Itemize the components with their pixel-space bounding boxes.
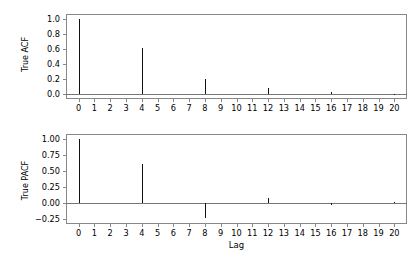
acf-x-tick-mark <box>315 99 316 102</box>
x-axis-label: Lag <box>66 240 407 250</box>
pacf-x-tick-mark <box>79 224 80 227</box>
acf-x-tick-mark <box>394 99 395 102</box>
pacf-zero-baseline <box>66 203 407 204</box>
acf-y-tick-mark <box>63 79 66 80</box>
acf-x-tick-mark <box>252 99 253 102</box>
acf-y-tick-label: 0.8 <box>18 29 60 39</box>
pacf-stem <box>142 164 143 203</box>
pacf-x-tick-mark <box>394 224 395 227</box>
acf-x-tick-mark <box>189 99 190 102</box>
acf-x-tick-mark <box>126 99 127 102</box>
pacf-y-tick-label: 1.00 <box>18 134 60 144</box>
acf-x-tick-mark <box>363 99 364 102</box>
pacf-x-tick-label: 20 <box>384 228 404 238</box>
pacf-y-tick-label: 0.00 <box>18 198 60 208</box>
pacf-y-tick-mark <box>63 155 66 156</box>
pacf-y-tick-mark <box>63 219 66 220</box>
pacf-y-tick-mark <box>63 187 66 188</box>
acf-y-tick-label: 1.0 <box>18 14 60 24</box>
pacf-x-tick-mark <box>221 224 222 227</box>
pacf-x-tick-mark <box>252 224 253 227</box>
acf-stem <box>331 92 332 94</box>
pacf-stem <box>331 203 332 205</box>
pacf-x-tick-mark <box>300 224 301 227</box>
pacf-x-tick-mark <box>237 224 238 227</box>
acf-x-tick-mark <box>284 99 285 102</box>
acf-stem <box>268 88 269 94</box>
pacf-y-tick-label: 0.75 <box>18 150 60 160</box>
pacf-x-tick-mark <box>110 224 111 227</box>
pacf-x-tick-mark <box>363 224 364 227</box>
acf-plot-area <box>66 14 407 99</box>
acf-y-tick-label: 0.2 <box>18 74 60 84</box>
pacf-x-tick-mark <box>158 224 159 227</box>
acf-x-tick-mark <box>173 99 174 102</box>
pacf-x-tick-mark <box>189 224 190 227</box>
acf-x-tick-mark <box>237 99 238 102</box>
acf-stem <box>142 48 143 94</box>
pacf-panel: True PACF Lag 1.000.750.500.250.00−0.250… <box>0 128 419 259</box>
pacf-x-tick-mark <box>315 224 316 227</box>
acf-y-tick-label: 0.4 <box>18 59 60 69</box>
acf-x-tick-mark <box>221 99 222 102</box>
pacf-stem <box>79 139 80 203</box>
acf-x-tick-mark <box>347 99 348 102</box>
acf-panel: True ACF 1.00.80.60.40.20.00123456789101… <box>0 0 419 128</box>
acf-pacf-figure: True ACF 1.00.80.60.40.20.00123456789101… <box>0 0 419 259</box>
pacf-x-tick-mark <box>284 224 285 227</box>
acf-y-tick-mark <box>63 34 66 35</box>
pacf-x-tick-mark <box>142 224 143 227</box>
pacf-x-tick-mark <box>173 224 174 227</box>
pacf-y-tick-label: −0.25 <box>18 214 60 224</box>
pacf-stem <box>394 202 395 203</box>
pacf-y-tick-mark <box>63 139 66 140</box>
pacf-stem <box>268 198 269 202</box>
acf-y-tick-label: 0.0 <box>18 89 60 99</box>
acf-zero-baseline <box>66 94 407 95</box>
pacf-plot-area <box>66 134 407 224</box>
acf-x-tick-mark <box>300 99 301 102</box>
pacf-x-tick-mark <box>331 224 332 227</box>
pacf-y-tick-label: 0.25 <box>18 182 60 192</box>
pacf-x-tick-mark <box>379 224 380 227</box>
pacf-y-tick-label: 0.50 <box>18 166 60 176</box>
acf-x-tick-mark <box>379 99 380 102</box>
acf-x-tick-mark <box>158 99 159 102</box>
pacf-x-tick-mark <box>126 224 127 227</box>
acf-x-tick-mark <box>110 99 111 102</box>
acf-y-tick-label: 0.6 <box>18 44 60 54</box>
acf-x-tick-mark <box>94 99 95 102</box>
pacf-x-tick-mark <box>347 224 348 227</box>
acf-stem <box>79 19 80 95</box>
acf-y-tick-mark <box>63 49 66 50</box>
acf-x-tick-mark <box>205 99 206 102</box>
pacf-x-tick-mark <box>94 224 95 227</box>
acf-stem <box>394 94 395 95</box>
acf-x-tick-mark <box>331 99 332 102</box>
pacf-y-tick-mark <box>63 171 66 172</box>
acf-y-tick-mark <box>63 64 66 65</box>
acf-x-tick-label: 20 <box>384 103 404 113</box>
acf-y-tick-mark <box>63 19 66 20</box>
acf-x-tick-mark <box>79 99 80 102</box>
acf-x-tick-mark <box>268 99 269 102</box>
acf-stem <box>205 79 206 95</box>
pacf-x-tick-mark <box>205 224 206 227</box>
acf-x-tick-mark <box>142 99 143 102</box>
pacf-stem <box>205 203 206 218</box>
pacf-x-tick-mark <box>268 224 269 227</box>
